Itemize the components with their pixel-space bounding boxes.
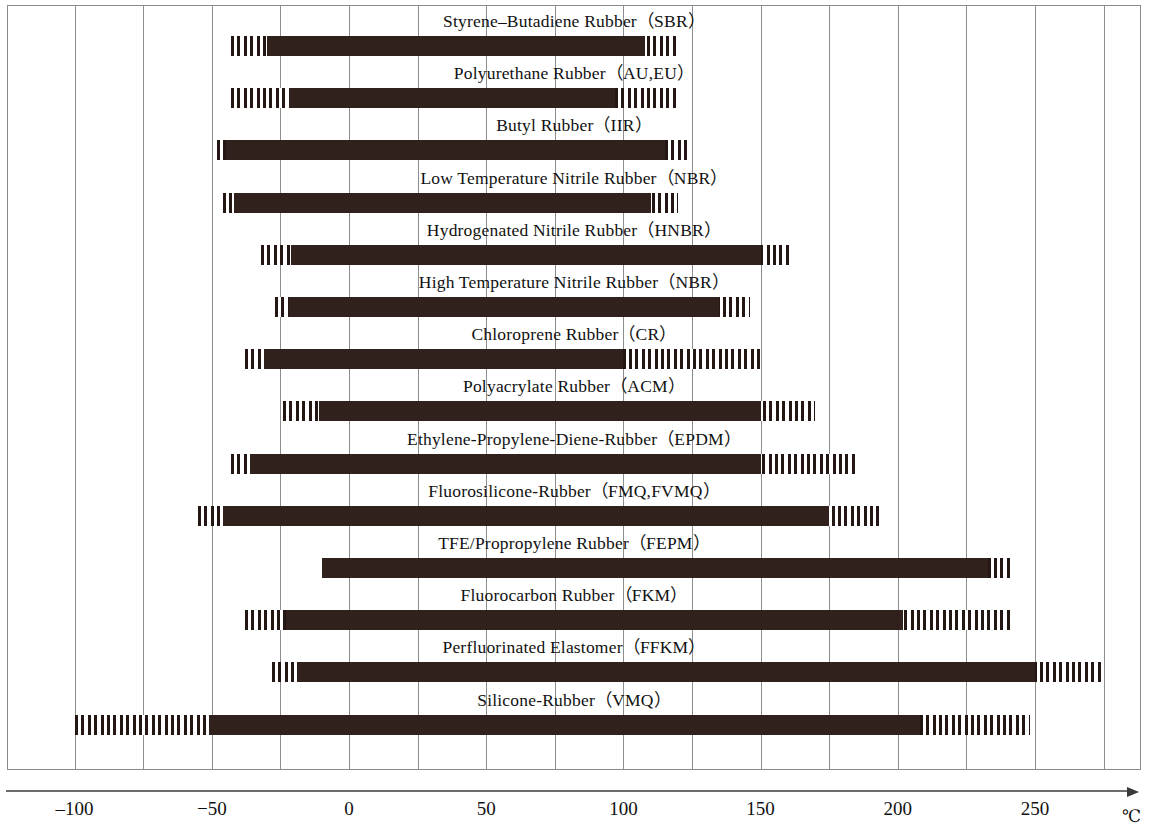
bar-standard-range	[234, 193, 651, 213]
row-label: Butyl Rubber（IIR）	[8, 114, 1140, 136]
x-axis-line	[6, 790, 1128, 792]
plot-area: Styrene–Butadiene Rubber（SBR）Polyurethan…	[7, 5, 1141, 770]
row-label: Hydrogenated Nitrile Rubber（HNBR）	[8, 219, 1140, 241]
row-label: Fluorosilicone-Rubber（FMQ,FVMQ）	[8, 480, 1140, 502]
chart-row: Butyl Rubber（IIR）	[8, 116, 1140, 168]
bar-standard-range	[297, 662, 1035, 682]
range-bar	[231, 88, 676, 108]
row-label: TFE/Propropylene Rubber（FEPM）	[8, 532, 1140, 554]
row-label: High Temperature Nitrile Rubber（NBR）	[8, 271, 1140, 293]
chart-row: Chloroprene Rubber（CR）	[8, 325, 1140, 377]
x-tick-50: 50	[477, 798, 496, 820]
chart-row: Silicone-Rubber（VMQ）	[8, 691, 1140, 743]
chart-row: Perfluorinated Elastomer（FFKM）	[8, 638, 1140, 690]
row-label: Styrene–Butadiene Rubber（SBR）	[8, 10, 1140, 32]
bar-standard-range	[289, 297, 720, 317]
range-bar	[283, 401, 815, 421]
range-bar	[272, 662, 1103, 682]
range-bar	[231, 454, 857, 474]
chart-row: Fluorosilicone-Rubber（FMQ,FVMQ）	[8, 482, 1140, 534]
row-label: Chloroprene Rubber（CR）	[8, 323, 1140, 345]
range-bar	[217, 140, 689, 160]
bar-standard-range	[226, 140, 665, 160]
chart-row: Low Temperature Nitrile Rubber（NBR）	[8, 169, 1140, 221]
chart-row: Hydrogenated Nitrile Rubber（HNBR）	[8, 221, 1140, 273]
row-label: Silicone-Rubber（VMQ）	[8, 689, 1140, 711]
row-label: Polyacrylate Rubber（ACM）	[8, 375, 1140, 397]
bar-standard-range	[250, 454, 760, 474]
range-bar	[223, 193, 679, 213]
x-tick-250: 250	[1021, 798, 1050, 820]
range-bar	[75, 715, 1030, 735]
chart-row: Styrene–Butadiene Rubber（SBR）	[8, 12, 1140, 64]
bar-standard-range	[286, 610, 903, 630]
row-label: Fluorocarbon Rubber（FKM）	[8, 584, 1140, 606]
range-bar	[231, 36, 676, 56]
bar-standard-range	[289, 88, 616, 108]
row-label: Ethylene-Propylene-Diene-Rubber（EPDM）	[8, 428, 1140, 450]
temperature-range-chart: Styrene–Butadiene Rubber（SBR）Polyurethan…	[0, 0, 1151, 828]
bar-standard-range	[209, 715, 920, 735]
bar-standard-range	[223, 506, 829, 526]
x-tick--100: –100	[56, 798, 94, 820]
bar-standard-range	[267, 36, 646, 56]
row-label: Polyurethane Rubber（AU,EU）	[8, 62, 1140, 84]
chart-row: TFE/Propropylene Rubber（FEPM）	[8, 534, 1140, 586]
range-bar	[245, 349, 761, 369]
chart-row: Polyurethane Rubber（AU,EU）	[8, 64, 1140, 116]
bar-standard-range	[264, 349, 623, 369]
x-tick--50: −50	[197, 798, 227, 820]
x-tick-150: 150	[746, 798, 775, 820]
bar-standard-range	[319, 401, 761, 421]
axis-unit-label: ℃	[1122, 806, 1141, 827]
x-tick-200: 200	[884, 798, 913, 820]
range-bar	[245, 610, 1013, 630]
row-label: Perfluorinated Elastomer（FFKM）	[8, 636, 1140, 658]
chart-row: High Temperature Nitrile Rubber（NBR）	[8, 273, 1140, 325]
range-bar	[322, 558, 1013, 578]
chart-row: Ethylene-Propylene-Diene-Rubber（EPDM）	[8, 430, 1140, 482]
x-tick-100: 100	[609, 798, 638, 820]
bar-standard-range	[291, 245, 760, 265]
range-bar	[275, 297, 750, 317]
chart-row: Fluorocarbon Rubber（FKM）	[8, 586, 1140, 638]
chart-row: Polyacrylate Rubber（ACM）	[8, 377, 1140, 429]
bar-standard-range	[322, 558, 989, 578]
row-label: Low Temperature Nitrile Rubber（NBR）	[8, 167, 1140, 189]
range-bar	[198, 506, 879, 526]
x-tick-0: 0	[344, 798, 354, 820]
range-bar	[261, 245, 791, 265]
